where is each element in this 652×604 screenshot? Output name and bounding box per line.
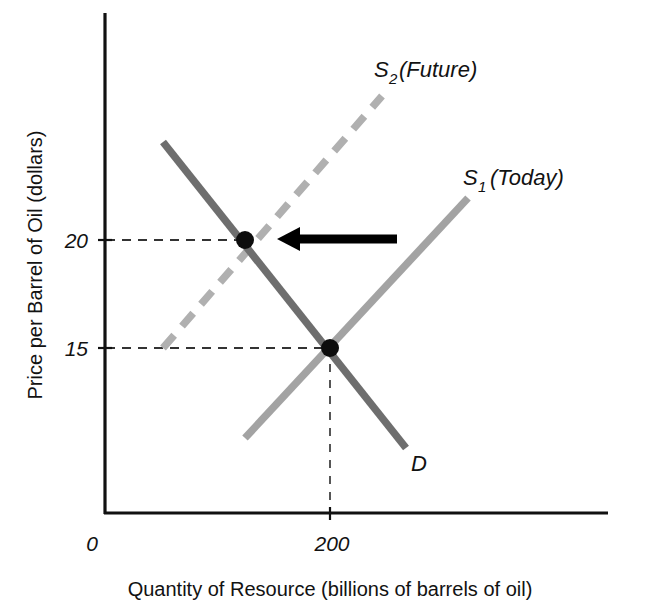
curve-label-s1-paren: (Today): [490, 165, 564, 190]
equilibrium-dot-today: [321, 339, 339, 357]
supply-demand-figure: 20 15 0 200 S 2 (Future) S 1 (Today) D: [0, 0, 652, 604]
curve-label-s2-paren: (Future): [399, 57, 477, 82]
curve-label-demand: D: [411, 451, 427, 476]
supply-future-curve-s2: [163, 96, 382, 348]
equilibrium-dot-future: [236, 231, 254, 249]
curve-label-s1-base: S: [463, 165, 478, 190]
y-axis-title: Price per Barrel of Oil (dollars): [24, 131, 46, 400]
curve-label-s1-subscript: 1: [478, 178, 486, 195]
curve-label-s2-base: S: [374, 57, 389, 82]
curve-label-s2: S 2 (Future): [374, 57, 477, 87]
y-tick-label-15: 15: [65, 337, 89, 360]
axis-titles-group: Price per Barrel of Oil (dollars) Quanti…: [24, 131, 532, 600]
leftward-shift-arrow: [277, 227, 397, 251]
curves-group: [163, 96, 468, 448]
curve-label-s2-subscript: 2: [388, 70, 398, 87]
origin-label-0: 0: [86, 532, 98, 555]
demand-curve-d: [163, 142, 406, 448]
y-tick-label-20: 20: [64, 229, 89, 252]
chart-canvas: 20 15 0 200 S 2 (Future) S 1 (Today) D: [0, 0, 652, 604]
axes-group: [98, 13, 608, 520]
shift-arrow-head: [277, 227, 300, 251]
supply-today-curve-s1: [245, 198, 468, 438]
x-tick-label-200: 200: [313, 532, 349, 555]
x-axis-title: Quantity of Resource (billions of barrel…: [128, 578, 533, 600]
curve-label-s1: S 1 (Today): [463, 165, 564, 195]
